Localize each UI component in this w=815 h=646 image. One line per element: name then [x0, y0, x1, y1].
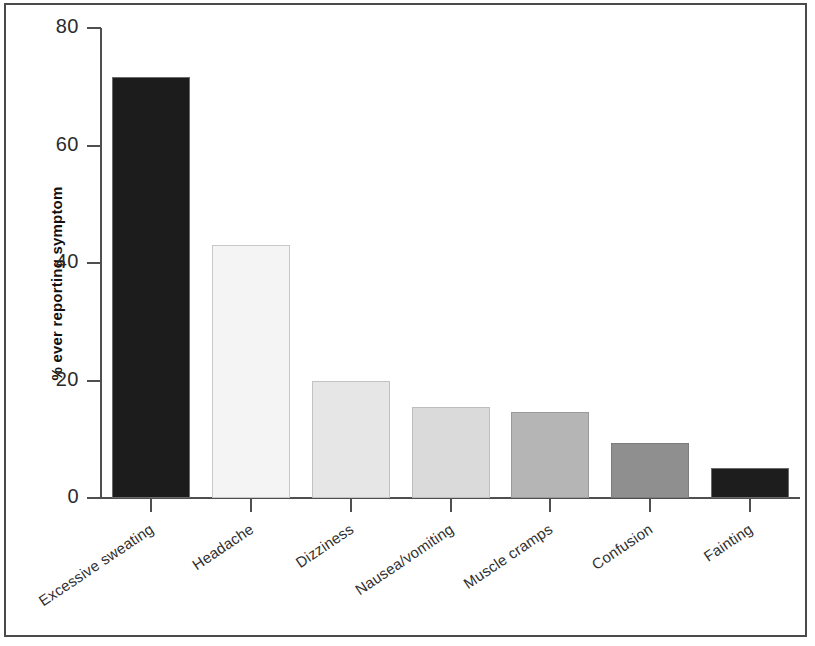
bar: [611, 443, 689, 498]
x-tick-label: Confusion: [589, 520, 656, 573]
x-tick-label: Muscle cramps: [461, 520, 556, 592]
y-axis-title: % ever reporting symptom: [48, 124, 65, 444]
y-tick-label-wrap: 80: [0, 27, 101, 29]
y-tick-label: 20: [35, 369, 79, 389]
bar: [511, 412, 589, 498]
bar: [112, 77, 190, 498]
y-tick-label-wrap: 0: [0, 497, 101, 499]
x-tick-label: Fainting: [700, 520, 755, 565]
y-tick-label-wrap: 40: [0, 262, 101, 264]
bar: [711, 468, 789, 498]
x-tick-label: Nausea/vomiting: [351, 520, 456, 598]
x-tick-label: Excessive sweating: [35, 520, 156, 609]
y-tick-label: 60: [35, 134, 79, 154]
x-tick-mark: [250, 499, 252, 512]
y-tick-label: 0: [35, 486, 79, 506]
y-tick-label-wrap: 20: [0, 380, 101, 382]
bar: [412, 407, 490, 498]
bar: [212, 245, 290, 498]
y-tick-label: 80: [35, 16, 79, 36]
x-tick-label: Dizziness: [292, 520, 356, 571]
x-tick-mark: [450, 499, 452, 512]
x-tick-mark: [549, 499, 551, 512]
bar-chart-plot-area: % ever reporting symptom 020406080 Exces…: [0, 0, 815, 646]
x-tick-mark: [150, 499, 152, 512]
x-tick-label: Headache: [189, 520, 257, 573]
x-tick-mark: [749, 499, 751, 512]
bar: [312, 381, 390, 499]
x-tick-mark: [649, 499, 651, 512]
figure-container: % ever reporting symptom 020406080 Exces…: [0, 0, 815, 646]
y-tick-label-wrap: 60: [0, 145, 101, 147]
y-tick-label: 40: [35, 251, 79, 271]
x-tick-mark: [350, 499, 352, 512]
